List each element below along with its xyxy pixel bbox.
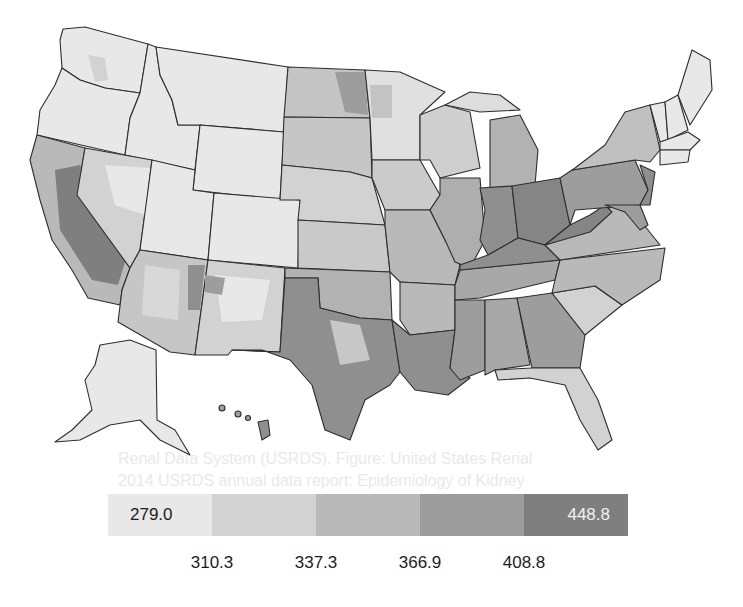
state-michigan-lp — [490, 115, 538, 188]
hawaii-island-1 — [219, 405, 225, 411]
hawaii-island-3 — [246, 416, 251, 421]
legend-breaks: 310.3 337.3 366.9 408.8 — [0, 553, 743, 577]
legend-max-label: 448.8 — [567, 505, 610, 525]
legend-min-label: 279.0 — [130, 505, 173, 525]
hawaii-island-2 — [235, 411, 241, 417]
state-kansas — [298, 220, 390, 272]
state-mississippi — [450, 300, 485, 380]
az-light — [142, 265, 180, 320]
state-florida — [495, 368, 612, 450]
legend-swatch-3 — [316, 494, 420, 536]
ghost-text-2: 2014 USRDS annual data report: Epidemiol… — [118, 472, 524, 490]
state-iowa — [372, 160, 440, 210]
legend-bar: 279.0 448.8 — [108, 494, 628, 536]
state-new-york — [572, 105, 660, 170]
legend-swatch-4 — [420, 494, 524, 536]
state-colorado — [208, 193, 300, 268]
state-hawaii — [258, 420, 270, 440]
us-choropleth-map — [0, 0, 743, 470]
nm-dark — [205, 275, 225, 295]
state-wyoming — [193, 125, 284, 200]
state-connecticut-ri — [660, 150, 690, 165]
legend-break-4: 408.8 — [503, 553, 546, 573]
legend-swatch-1: 279.0 — [108, 494, 212, 536]
legend-swatch-2 — [212, 494, 316, 536]
mn-shade — [370, 85, 392, 118]
legend-swatch-5: 448.8 — [524, 494, 628, 536]
legend-break-3: 366.9 — [399, 553, 442, 573]
legend-break-1: 310.3 — [191, 553, 234, 573]
state-arkansas — [400, 282, 455, 335]
state-alaska — [55, 340, 190, 455]
legend-break-2: 337.3 — [295, 553, 338, 573]
state-wisconsin — [420, 105, 480, 178]
